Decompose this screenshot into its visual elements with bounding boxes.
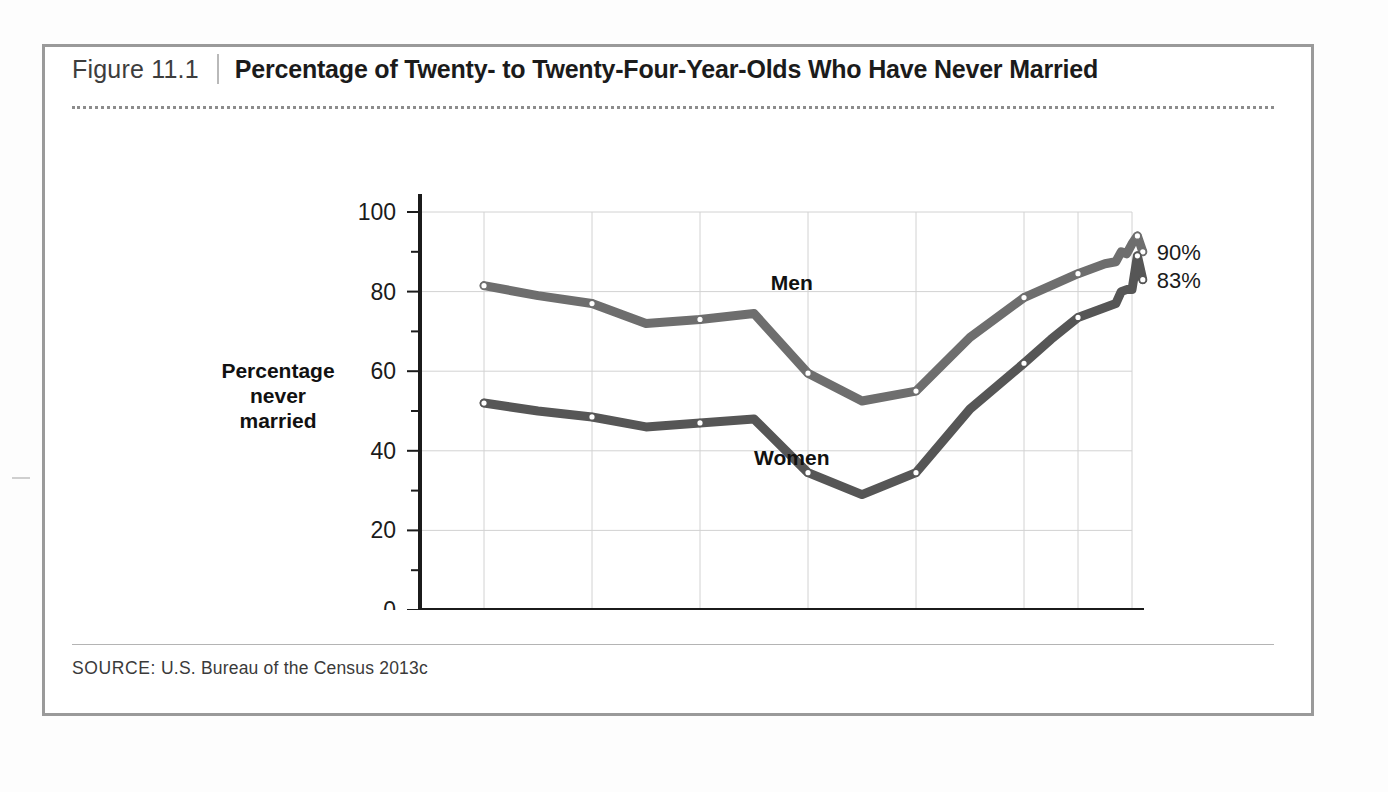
chart-plot-area: 020406080100 189019101930195019701990200… bbox=[72, 120, 1274, 610]
figure-page: Figure 11.1 Percentage of Twenty- to Twe… bbox=[0, 0, 1388, 792]
page-title: Percentage of Twenty- to Twenty-Four-Yea… bbox=[235, 55, 1098, 84]
data-point-marker bbox=[1021, 294, 1028, 301]
series-end-marker bbox=[1139, 276, 1146, 283]
data-point-marker bbox=[1134, 232, 1141, 239]
end-value-label-women: 83% bbox=[1157, 268, 1201, 293]
y-tick-labels-group: 020406080100 bbox=[358, 199, 396, 610]
series-label-men: Men bbox=[771, 271, 813, 294]
y-tick-label: 100 bbox=[358, 199, 396, 225]
source-note: SOURCE: U.S. Bureau of the Census 2013c bbox=[72, 658, 428, 679]
data-point-marker bbox=[481, 282, 488, 289]
y-tick-label: 20 bbox=[370, 517, 396, 543]
data-point-marker bbox=[481, 400, 488, 407]
y-axis-title-group: Percentagenevermarried bbox=[221, 359, 334, 432]
series-markers-group bbox=[481, 232, 1147, 476]
axis-lines-group bbox=[420, 194, 1144, 610]
data-point-marker bbox=[589, 300, 596, 307]
y-tick-label: 60 bbox=[370, 358, 396, 384]
y-tick-label: 80 bbox=[370, 279, 396, 305]
y-tick-label: 40 bbox=[370, 438, 396, 464]
data-point-marker bbox=[697, 316, 704, 323]
line-chart-svg: 020406080100 189019101930195019701990200… bbox=[72, 120, 1274, 610]
source-citation: U.S. Bureau of the Census 2013c bbox=[156, 658, 428, 678]
y-axis-title-line: Percentage bbox=[221, 359, 334, 382]
data-point-marker bbox=[697, 420, 704, 427]
data-point-marker bbox=[805, 370, 812, 377]
series-annotations-group: MenWomen bbox=[754, 271, 829, 469]
end-value-label-men: 90% bbox=[1157, 240, 1201, 265]
data-point-marker bbox=[1075, 270, 1082, 277]
figure-title-row: Figure 11.1 Percentage of Twenty- to Twe… bbox=[72, 48, 1272, 90]
series-end-labels-group: 90%83% bbox=[1157, 240, 1201, 293]
data-point-marker bbox=[805, 469, 812, 476]
data-point-marker bbox=[1075, 314, 1082, 321]
y-axis-title-line: married bbox=[239, 409, 316, 432]
series-line-men bbox=[484, 236, 1143, 401]
figure-number: Figure 11.1 bbox=[72, 55, 199, 84]
series-label-women: Women bbox=[754, 446, 829, 469]
data-point-marker bbox=[1021, 360, 1028, 367]
data-point-marker bbox=[913, 388, 920, 395]
page-edge-mark bbox=[12, 477, 30, 479]
y-tick-label: 0 bbox=[383, 597, 396, 610]
data-point-marker bbox=[913, 469, 920, 476]
title-divider bbox=[217, 54, 219, 84]
title-dotted-rule bbox=[72, 106, 1274, 112]
data-point-marker bbox=[589, 414, 596, 421]
source-divider bbox=[72, 644, 1274, 645]
data-point-marker bbox=[1134, 252, 1141, 259]
source-label: SOURCE: bbox=[72, 658, 156, 678]
y-axis-title-line: never bbox=[250, 384, 306, 407]
